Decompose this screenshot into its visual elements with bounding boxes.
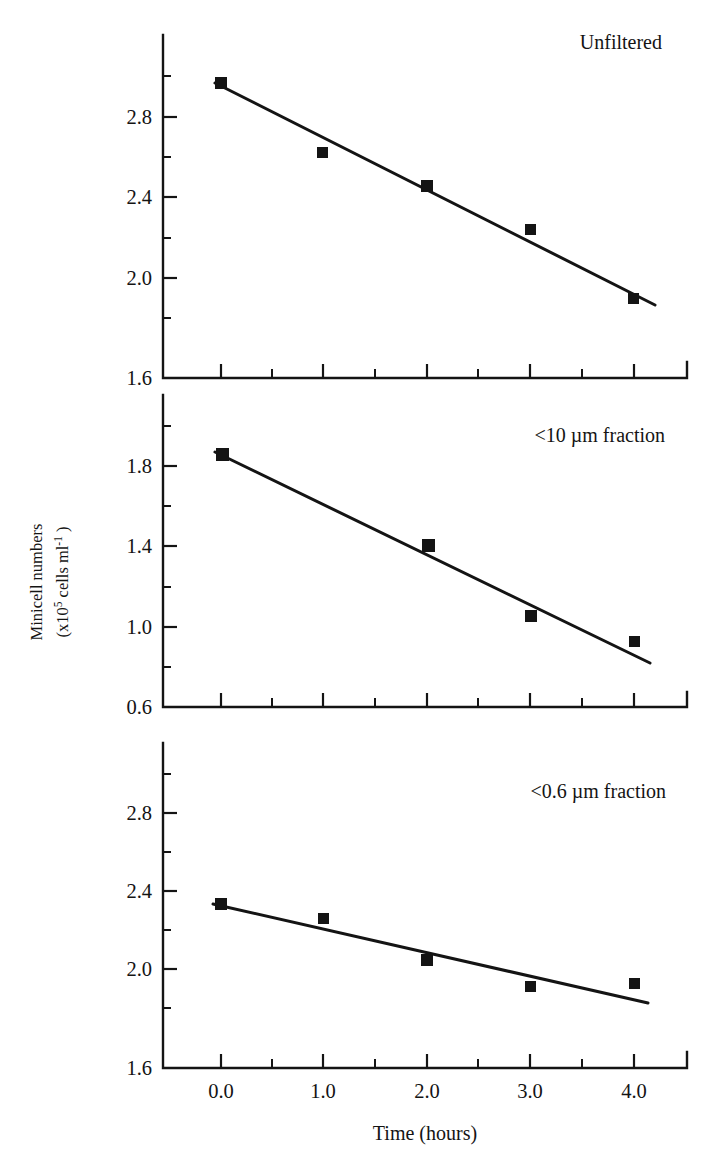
panel3-data-points [215, 898, 640, 992]
xticklabel-0.0: 0.0 [208, 1080, 234, 1102]
panel1-yticklabel-1.6: 1.6 [126, 367, 152, 389]
panel1-marker-4 [628, 293, 639, 304]
panel2-yticklabel-1.4: 1.4 [126, 535, 152, 557]
panel-lt06um: 2.8 2.4 2.0 1.6 <0.6 µm fraction 0.0 1.0… [126, 743, 687, 1145]
panel-lt10um: 1.8 1.4 1.0 0.6 <10 µm fraction [126, 395, 687, 718]
panel3-marker-3 [525, 981, 536, 992]
panel2-x-ticks [221, 693, 634, 707]
panel2-y-ticks [163, 426, 177, 667]
panel2-marker-1 [422, 539, 435, 552]
panel2-marker-0 [216, 448, 229, 461]
panel1-data-points [215, 77, 639, 304]
panel2-data-points [216, 448, 640, 647]
panel3-y-ticks [163, 774, 177, 1008]
panel1-marker-2 [421, 180, 433, 192]
panel3-marker-0 [215, 898, 227, 910]
xticklabel-4.0: 4.0 [621, 1080, 647, 1102]
panel3-marker-2 [421, 954, 433, 966]
panel3-yticklabel-1.6: 1.6 [126, 1057, 152, 1079]
panel3-marker-4 [629, 978, 640, 989]
panel2-regression-line [215, 452, 650, 663]
figure-container: Minicell numbers (x105 cells ml-1 ) [0, 0, 723, 1172]
y-axis-label: Minicell numbers (x105 cells ml-1 ) [27, 524, 72, 641]
panel2-marker-2 [525, 610, 537, 622]
y-axis-label-prefix: (x10 [53, 607, 72, 637]
panel1-axis-frame [163, 35, 687, 378]
panel1-yticklabel-2.8: 2.8 [126, 106, 152, 128]
panel3-yticklabel-2.4: 2.4 [126, 880, 152, 902]
panel1-regression-line [215, 83, 655, 305]
y-axis-label-mid: cells ml [53, 545, 72, 601]
panel1-y-ticklabels: 2.8 2.4 2.0 1.6 [126, 106, 152, 389]
y-axis-label-line2: (x105 cells ml-1 ) [52, 526, 72, 637]
panel1-x-ticks [221, 364, 634, 378]
panel1-marker-0 [215, 77, 227, 89]
y-axis-label-line1: Minicell numbers [27, 524, 46, 641]
panel3-yticklabel-2.0: 2.0 [126, 958, 152, 980]
panel1-title: Unfiltered [580, 31, 662, 53]
panel3-marker-1 [318, 913, 329, 924]
panel3-regression-line [213, 904, 648, 1003]
panel1-y-ticks [163, 76, 177, 318]
panel1-yticklabel-2.0: 2.0 [126, 267, 152, 289]
y-axis-label-exponent2: -1 [52, 536, 64, 546]
panel2-yticklabel-1.0: 1.0 [126, 616, 152, 638]
panel1-yticklabel-2.4: 2.4 [126, 186, 152, 208]
panel3-title: <0.6 µm fraction [530, 780, 666, 803]
panel2-yticklabel-1.8: 1.8 [126, 455, 152, 477]
x-axis-title: Time (hours) [373, 1122, 477, 1145]
panel2-title: <10 µm fraction [534, 424, 665, 447]
xticklabel-2.0: 2.0 [414, 1080, 440, 1102]
panel3-x-ticks [221, 1054, 634, 1068]
xticklabel-3.0: 3.0 [517, 1080, 543, 1102]
panel-unfiltered: 2.8 2.4 2.0 1.6 Unfiltered [126, 31, 687, 389]
multi-panel-scatter-chart: Minicell numbers (x105 cells ml-1 ) [0, 0, 723, 1172]
panel1-marker-3 [525, 224, 536, 235]
y-axis-label-suffix: ) [53, 526, 72, 536]
panel2-y-ticklabels: 1.8 1.4 1.0 0.6 [126, 455, 152, 718]
panel3-y-ticklabels: 2.8 2.4 2.0 1.6 [126, 802, 152, 1079]
panel1-marker-1 [317, 147, 328, 158]
panel2-yticklabel-0.6: 0.6 [126, 696, 152, 718]
x-axis-ticklabels: 0.0 1.0 2.0 3.0 4.0 [208, 1080, 647, 1102]
xticklabel-1.0: 1.0 [310, 1080, 336, 1102]
panel3-yticklabel-2.8: 2.8 [126, 802, 152, 824]
panel2-marker-3 [629, 636, 640, 647]
